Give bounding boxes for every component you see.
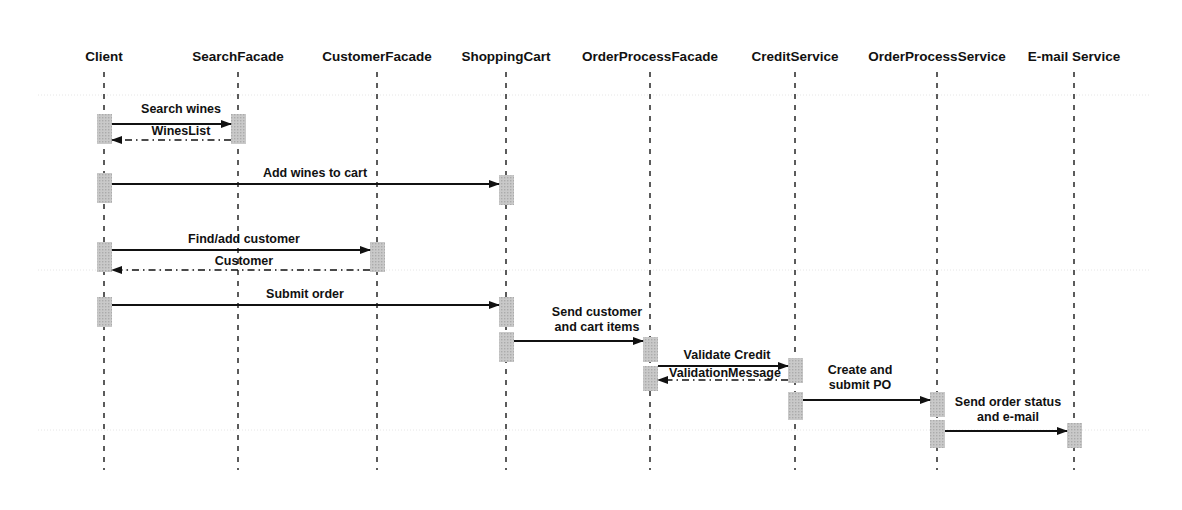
activation-bar-email-service	[1067, 423, 1082, 448]
message-msg-validation-message: ValidationMessage	[658, 366, 788, 380]
activation-bar-credit-service	[788, 358, 803, 383]
activation-bar-customer-facade	[370, 242, 385, 272]
participant-label-client: Client	[85, 49, 123, 64]
message-label: Send order status	[955, 395, 1061, 409]
message-label: Find/add customer	[188, 232, 300, 246]
activation-bar-order-process-service	[930, 392, 945, 417]
activation-bar-client	[97, 242, 112, 272]
participant-label-email-service: E-mail Service	[1028, 49, 1121, 64]
message-label: Create and	[828, 363, 893, 377]
activation-bar-search-facade	[231, 114, 246, 144]
activation-bar-credit-service	[788, 392, 803, 420]
activation-bar-order-process-service	[930, 420, 945, 448]
sequence-diagram-canvas: Search winesWinesListAdd wines to cartFi…	[0, 0, 1182, 510]
participant-label-customer-facade: CustomerFacade	[322, 49, 432, 64]
message-label: and cart items	[555, 320, 640, 334]
uml-sequence-diagram: Search winesWinesListAdd wines to cartFi…	[0, 0, 1182, 510]
participant-label-search-facade: SearchFacade	[192, 49, 284, 64]
activation-bar-shopping-cart	[499, 332, 514, 362]
activation-bar-shopping-cart	[499, 297, 514, 327]
diagram-background	[0, 0, 1182, 510]
message-label: and e-mail	[977, 410, 1039, 424]
message-label: submit PO	[829, 378, 892, 392]
activation-bar-client	[97, 173, 112, 203]
participant-label-order-process-facade: OrderProcessFacade	[582, 49, 718, 64]
participant-label-shopping-cart: ShoppingCart	[461, 49, 551, 64]
participant-labels-layer: ClientSearchFacadeCustomerFacadeShopping…	[85, 49, 1120, 64]
message-label: WinesList	[152, 124, 212, 138]
message-label: Validate Credit	[684, 348, 772, 362]
activation-bar-client	[97, 297, 112, 327]
message-label: Search wines	[141, 102, 221, 116]
activation-bar-order-process-facade	[643, 366, 658, 391]
message-label: ValidationMessage	[669, 366, 781, 380]
participant-label-credit-service: CreditService	[751, 49, 839, 64]
message-label: Customer	[215, 254, 273, 268]
activation-bar-order-process-facade	[643, 337, 658, 362]
participant-label-order-process-service: OrderProcessService	[868, 49, 1006, 64]
message-label: Submit order	[266, 287, 344, 301]
activation-bar-shopping-cart	[499, 175, 514, 205]
message-label: Send customer	[552, 305, 642, 319]
activation-bar-client	[97, 114, 112, 144]
message-label: Add wines to cart	[263, 166, 368, 180]
